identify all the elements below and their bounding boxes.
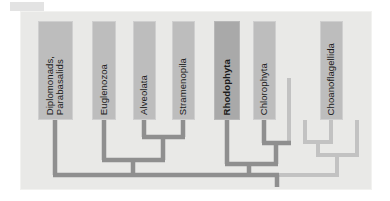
taxon-box-stramenopila[interactable]: Stramenopila: [172, 21, 195, 120]
taxon-box-choanoflagellida[interactable]: Choanoflagellida: [320, 21, 343, 120]
taxon-box-diplomonads-parabasalids[interactable]: Diplomonads, Parabasalids: [38, 21, 73, 120]
taxon-label-diplomonads-parabasalids: Diplomonads, Parabasalids: [45, 56, 66, 115]
phylogenetic-tree-figure: Diplomonads, Parabasalids Euglenozoa Alv…: [0, 0, 390, 201]
taxon-box-rhodophyta[interactable]: Rhodophyta: [214, 21, 240, 120]
taxon-label-stramenopila: Stramenopila: [178, 58, 188, 115]
taxon-box-alveolata[interactable]: Alveolata: [133, 21, 156, 120]
taxon-label-alveolata: Alveolata: [139, 75, 149, 115]
taxon-box-chlorophyta[interactable]: Chlorophyta: [253, 21, 276, 120]
branch-group-main: [53, 120, 291, 187]
taxon-label-rhodophyta: Rhodophyta: [222, 59, 232, 115]
taxon-box-euglenozoa[interactable]: Euglenozoa: [92, 21, 116, 120]
taxon-label-chlorophyta: Chlorophyta: [259, 63, 269, 115]
taxon-label-euglenozoa: Euglenozoa: [99, 64, 109, 115]
taxon-label-choanoflagellida: Choanoflagellida: [326, 43, 336, 115]
